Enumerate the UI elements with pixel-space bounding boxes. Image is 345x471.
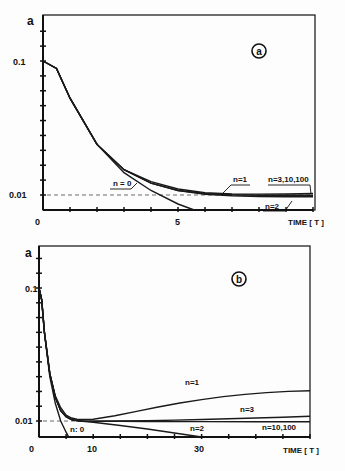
panel-a-xtick-5: 5 bbox=[175, 217, 180, 227]
panel-b-curves bbox=[39, 288, 310, 437]
panel-b-label-n1: n=1 bbox=[185, 378, 200, 387]
panel-b-label-n3: n=3 bbox=[240, 405, 255, 414]
series-n-1 bbox=[39, 288, 310, 420]
panel-a-label-n1: n=1 bbox=[233, 175, 248, 184]
panel-a-curves bbox=[43, 61, 313, 210]
panel-b-ylabel: a bbox=[25, 246, 32, 260]
svg-text:b: b bbox=[236, 274, 242, 285]
panel-a-xlabel: TIME [ T ] bbox=[288, 218, 324, 227]
series-n-3 bbox=[39, 288, 310, 421]
series-n-10-100 bbox=[39, 288, 310, 422]
panel-b-xtick-0: 0 bbox=[29, 444, 34, 454]
panel-a-ylabel: a bbox=[27, 14, 34, 28]
panel-b-frame bbox=[39, 246, 310, 437]
panel-a: a 0.1 0.01 0 5 TIME [ T ] a n = 0 n=1 n=… bbox=[9, 14, 324, 227]
panel-b-label-n10: n=10,100 bbox=[262, 423, 297, 432]
panel-b-ytick-0.1: 0.1 bbox=[25, 284, 38, 294]
panel-a-leader-n3 bbox=[268, 185, 311, 194]
panel-b: a 0.1 0.01 0 10 30 TIME [ T ] b n: 0 n=1… bbox=[15, 246, 319, 455]
panel-b-xlabel: TIME [ T ] bbox=[283, 446, 319, 455]
panel-b-label-n0: n: 0 bbox=[70, 425, 85, 434]
panel-a-leader-n1 bbox=[222, 185, 250, 194]
panel-b-ytick-0.01: 0.01 bbox=[15, 416, 33, 426]
panel-a-badge: a bbox=[252, 44, 266, 58]
panel-a-label-n2: n=2 bbox=[265, 202, 280, 211]
svg-text:a: a bbox=[256, 46, 262, 57]
panel-a-xtick-0: 0 bbox=[35, 217, 40, 227]
panel-b-badge: b bbox=[232, 272, 246, 286]
panel-a-label-n0: n = 0 bbox=[113, 179, 132, 188]
panel-b-label-n2: n=2 bbox=[190, 424, 205, 433]
panel-b-xtick-30: 30 bbox=[194, 444, 204, 454]
figure: a 0.1 0.01 0 5 TIME [ T ] a n = 0 n=1 n=… bbox=[0, 0, 345, 471]
chart-canvas: a 0.1 0.01 0 5 TIME [ T ] a n = 0 n=1 n=… bbox=[0, 0, 345, 471]
panel-a-ytick-0.1: 0.1 bbox=[13, 57, 26, 67]
panel-b-xtick-10: 10 bbox=[87, 444, 97, 454]
panel-a-ytick-0.01: 0.01 bbox=[9, 190, 27, 200]
panel-a-label-n3: n=3,10,100 bbox=[268, 175, 309, 184]
